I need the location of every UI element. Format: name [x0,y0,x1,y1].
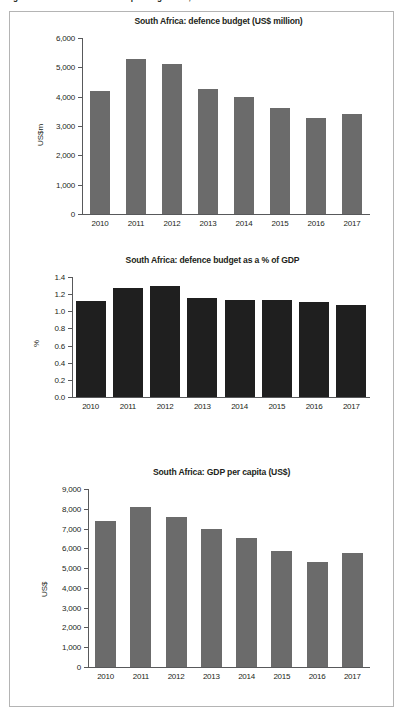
y-tick-mark [84,588,88,589]
y-tick-label: 0 [39,663,81,672]
y-tick-mark [84,667,88,668]
y-tick-mark [68,277,72,278]
bar [299,302,329,397]
y-tick-label: 1,000 [35,180,75,189]
x-tick-label: 2013 [188,219,228,228]
bar [271,551,292,667]
bar [187,298,217,397]
x-tick-label: 2010 [80,219,120,228]
y-tick-label: 1.4 [35,273,65,282]
bar [306,118,326,214]
y-tick-mark [84,529,88,530]
bar [150,286,180,397]
y-tick-label: 0 [35,210,75,219]
bar [236,538,257,667]
x-axis-line [82,214,370,215]
bar [234,97,254,214]
x-axis-line [88,667,370,668]
plot-area: 01,0002,0003,0004,0005,0006,000 [82,38,370,214]
bar [262,300,292,397]
y-axis-title: US$ [40,581,49,597]
figure-frame: South Africa: defence budget (US$ millio… [9,11,394,707]
plot-area: 0.00.20.40.60.81.01.21.4 [72,277,370,397]
bar [126,59,146,214]
x-tick-label: 2015 [262,672,302,681]
figure-caption: Figure 4: South Africa: defence spending… [6,0,402,3]
x-tick-label: 2011 [121,672,161,681]
y-tick-label: 4,000 [35,92,75,101]
x-tick-label: 2012 [145,402,185,411]
bar [336,305,366,397]
y-tick-mark [68,397,72,398]
y-tick-label: 1.2 [35,290,65,299]
bar [162,64,182,214]
y-tick-mark [84,568,88,569]
x-tick-label: 2011 [108,402,148,411]
y-tick-label: 5,000 [39,564,81,573]
y-tick-mark [84,509,88,510]
x-tick-label: 2012 [156,672,196,681]
y-tick-mark [68,346,72,347]
bar [201,529,222,667]
bar [130,507,151,667]
chart-defence-budget: South Africa: defence budget (US$ millio… [10,16,393,248]
y-tick-label: 1,000 [39,643,81,652]
y-tick-label: 6,000 [39,544,81,553]
bar [307,562,328,667]
y-tick-label: 2,000 [35,151,75,160]
bar [225,300,255,397]
y-tick-label: 6,000 [35,34,75,43]
bar [95,521,116,667]
bar [166,517,187,667]
y-tick-mark [78,126,82,127]
y-tick-mark [84,548,88,549]
y-axis-title: % [32,340,41,347]
x-tick-label: 2010 [86,672,126,681]
y-tick-label: 9,000 [39,485,81,494]
y-tick-mark [78,214,82,215]
y-tick-mark [68,294,72,295]
y-tick-mark [68,380,72,381]
bar [198,89,218,214]
x-axis-line [72,397,370,398]
x-tick-label: 2016 [294,402,334,411]
x-tick-label: 2014 [227,672,267,681]
y-tick-mark [84,489,88,490]
x-tick-label: 2016 [297,672,337,681]
x-tick-label: 2013 [191,672,231,681]
y-tick-mark [84,627,88,628]
x-tick-label: 2017 [332,672,372,681]
plot-area: 01,0002,0003,0004,0005,0006,0007,0008,00… [88,489,370,667]
x-tick-label: 2014 [224,219,264,228]
y-axis-line [72,277,73,397]
bar [90,91,110,214]
y-tick-mark [84,647,88,648]
bar [342,553,363,667]
chart-defence-budget-pct-gdp: South Africa: defence budget as a % of G… [10,255,393,455]
y-tick-label: 2,000 [39,623,81,632]
chart-title: South Africa: defence budget as a % of G… [10,255,393,265]
x-tick-label: 2015 [257,402,297,411]
y-tick-label: 0.0 [35,393,65,402]
chart-title: South Africa: GDP per capita (US$) [10,467,393,477]
y-tick-mark [68,311,72,312]
y-axis-line [82,38,83,214]
x-tick-label: 2014 [220,402,260,411]
y-tick-mark [78,67,82,68]
x-tick-label: 2013 [182,402,222,411]
bar [113,288,143,397]
y-axis-title: US$m [36,124,45,146]
bar [342,114,362,214]
y-tick-label: 5,000 [35,63,75,72]
x-tick-label: 2015 [260,219,300,228]
y-tick-mark [68,363,72,364]
y-axis-line [88,489,89,667]
y-tick-mark [78,38,82,39]
x-tick-label: 2012 [152,219,192,228]
y-tick-mark [78,97,82,98]
x-tick-label: 2017 [332,219,372,228]
y-tick-label: 7,000 [39,524,81,533]
y-tick-label: 1.0 [35,307,65,316]
y-tick-label: 0.4 [35,358,65,367]
y-tick-mark [78,185,82,186]
